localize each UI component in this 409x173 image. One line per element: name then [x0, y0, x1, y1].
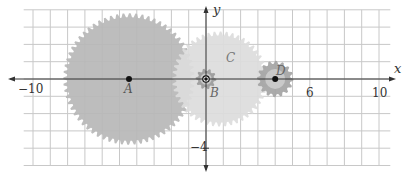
- x-axis-left-arrow: [8, 77, 15, 82]
- x-axis-right-arrow: [389, 77, 396, 82]
- y-axis-label: y: [213, 3, 220, 16]
- gear-b-center-dot: [204, 77, 208, 81]
- coordinate-plane: y x −10 6 10 −4 A B C D: [0, 0, 409, 173]
- y-axis-down-arrow: [204, 165, 209, 172]
- gear-b-label: B: [210, 87, 219, 99]
- tick-label-neg4: −4: [190, 141, 208, 153]
- gear-d-label: D: [276, 65, 286, 77]
- tick-label-6: 6: [306, 87, 314, 99]
- x-axis-label: x: [394, 62, 401, 75]
- gear-a-label: A: [124, 83, 133, 95]
- tick-label-10: 10: [372, 87, 387, 99]
- gear-c-label: C: [226, 52, 235, 64]
- tick-label-neg10: −10: [18, 83, 43, 95]
